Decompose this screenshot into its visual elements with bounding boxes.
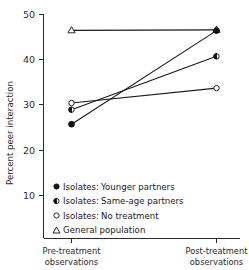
chart-page: Percent peer interaction 50 40 30 20 10 <box>0 0 249 270</box>
y-tick-label-20: 20 <box>23 145 35 156</box>
filled-circle-marker-pre <box>69 121 75 127</box>
legend-triangle-icon <box>53 227 60 233</box>
legend-label-younger-partners-prefix: Isolates: <box>63 182 99 192</box>
category-label-pre-line1: Pre-treatment <box>43 246 102 256</box>
chart-legend: Isolates: Younger partners Isolates: Sam… <box>53 182 184 236</box>
category-label-pre-line2: observations <box>45 257 98 267</box>
legend-half-filled-circle-icon <box>54 198 59 203</box>
legend-filled-circle-icon <box>54 184 59 189</box>
legend-label-younger-partners: Younger partners <box>100 182 175 192</box>
x-axis-ticks <box>72 239 217 244</box>
y-axis-title: Percent peer interaction <box>5 81 15 185</box>
open-circle-marker-pre <box>69 100 74 105</box>
y-axis-ticks: 50 40 30 20 10 <box>23 9 44 201</box>
legend-label-no-treatment-prefix: Isolates: <box>63 211 99 221</box>
category-label-post-line2: observations <box>190 257 243 267</box>
y-tick-label-30: 30 <box>23 99 35 110</box>
open-circle-marker-post <box>214 85 219 90</box>
legend-label-same-age-partners-prefix: Isolates: <box>63 196 99 206</box>
series-line-younger-partners <box>72 31 217 125</box>
category-label-post-line1: Post-treatment <box>186 246 249 256</box>
legend-label-general-population: General population <box>63 225 145 235</box>
y-tick-label-40: 40 <box>23 54 35 65</box>
half-filled-circle-marker-pre <box>69 107 74 112</box>
half-filled-circle-marker-post <box>214 54 219 59</box>
filled-circle-marker-post <box>214 28 220 34</box>
series-line-no-treatment <box>72 88 217 103</box>
line-chart: Percent peer interaction 50 40 30 20 10 <box>0 0 249 270</box>
y-tick-label-10: 10 <box>23 190 35 201</box>
series-line-same-age-partners <box>72 56 217 109</box>
legend-label-same-age-partners: Same-age partners <box>101 196 184 206</box>
y-tick-label-50: 50 <box>23 9 35 20</box>
legend-label-no-treatment: No treatment <box>101 211 159 221</box>
series-lines <box>72 30 217 124</box>
series-line-general-population <box>72 30 217 31</box>
x-axis-category-labels: Pre-treatment observations Post-treatmen… <box>43 246 249 267</box>
triangle-marker-pre <box>68 27 75 33</box>
legend-open-circle-icon <box>54 213 59 218</box>
